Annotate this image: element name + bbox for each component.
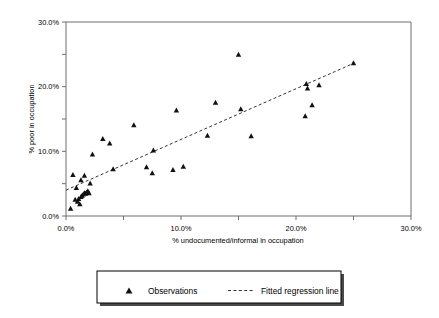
y-tick-label: 0.0%: [42, 212, 59, 221]
y-tick-label: 30.0%: [38, 18, 59, 27]
y-tick-label: 20.0%: [38, 82, 59, 91]
chart-legend: Observations Fitted regression line: [97, 271, 344, 306]
y-tick-label: 10.0%: [38, 147, 59, 156]
scatter-chart: 0.0%10.0%20.0%30.0% 0.0%10.0%20.0%30.0% …: [0, 0, 439, 318]
x-tick-label: 10.0%: [171, 224, 192, 233]
legend-item-fitted-regression-line: Fitted regression line: [261, 286, 339, 296]
x-tick-label: 30.0%: [401, 224, 422, 233]
x-tick-label: 0.0%: [58, 224, 75, 233]
chart-canvas: 0.0%10.0%20.0%30.0% 0.0%10.0%20.0%30.0% …: [0, 0, 439, 318]
x-tick-label: 20.0%: [286, 224, 307, 233]
legend-item-observations: Observations: [148, 286, 197, 296]
y-axis-title: % poor in occupation: [27, 84, 36, 153]
x-axis-title: % undocumented/informal in occupation: [172, 236, 303, 245]
